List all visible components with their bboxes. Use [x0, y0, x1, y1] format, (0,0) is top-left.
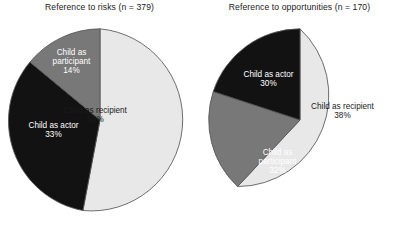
- chart-panel-opportunities: Reference to opportunities (n = 170) Chi…: [200, 0, 399, 225]
- pie-chart-figure: Reference to risks (n = 379) Child as re…: [0, 0, 399, 225]
- chart-panel-risks: Reference to risks (n = 379) Child as re…: [0, 0, 199, 225]
- pie-opportunities-svg: [206, 26, 394, 214]
- chart-title-risks: Reference to risks (n = 379): [0, 2, 199, 12]
- pie-risks: Child as recipient 53% Child as actor 33…: [6, 26, 194, 214]
- chart-title-opportunities: Reference to opportunities (n = 170): [200, 2, 399, 12]
- pie-opportunities: Child as recipient 38% Child as actor 30…: [206, 26, 394, 214]
- pie-risks-svg: [6, 26, 194, 214]
